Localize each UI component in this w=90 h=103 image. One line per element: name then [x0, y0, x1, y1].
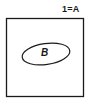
subset-b-label: B: [41, 47, 48, 58]
venn-diagram: 1=A B: [0, 0, 90, 103]
universe-label: 1=A: [62, 4, 79, 14]
